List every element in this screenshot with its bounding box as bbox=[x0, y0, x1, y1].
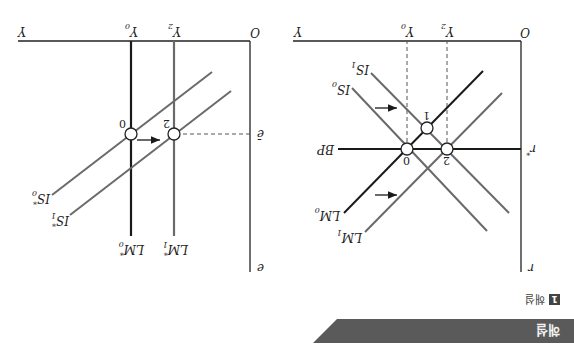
is0-label: IS0 bbox=[332, 80, 351, 96]
section-header: 해설 bbox=[313, 319, 574, 343]
is1-star-curve bbox=[70, 91, 231, 215]
figure-caption: 해설 bbox=[525, 292, 545, 306]
point-2-label: 2 bbox=[443, 154, 450, 167]
right-origin-label: O bbox=[250, 25, 260, 39]
diagram-canvas: 해설 1 해설 r O Y r* Y2 Y0 BP LM0 LM1 IS0 bbox=[0, 0, 574, 357]
lm1-star-label: LM*1 bbox=[163, 240, 189, 257]
right-y2-tick: Y2 bbox=[168, 22, 181, 38]
point-1 bbox=[421, 122, 433, 134]
left-y-axis-label: r bbox=[527, 261, 534, 275]
is1-label: IS1 bbox=[351, 60, 370, 76]
point-0-label: 0 bbox=[403, 154, 410, 167]
bp-label: BP bbox=[316, 142, 335, 156]
star-point-0 bbox=[125, 128, 137, 140]
header-bar bbox=[313, 319, 574, 343]
left-y2-tick: Y2 bbox=[441, 22, 454, 38]
lm0-curve bbox=[344, 71, 483, 213]
point-1-label: 1 bbox=[423, 109, 430, 122]
left-x-axis-label: Y bbox=[293, 24, 302, 38]
right-panel-is-lm-star: e O Y ē LM*1 LM*0 Y2 Y0 IS*0 IS*1 0 2 bbox=[17, 22, 264, 275]
is0-curve bbox=[352, 88, 487, 231]
left-origin-label: O bbox=[520, 25, 530, 39]
left-y0-tick: Y0 bbox=[401, 22, 414, 38]
is0-star-label: IS*0 bbox=[32, 189, 51, 206]
diagram-stage: 해설 1 해설 r O Y r* Y2 Y0 BP LM0 LM1 IS0 bbox=[0, 0, 574, 357]
is1-star-label: IS*1 bbox=[51, 211, 70, 228]
star-point-0-label: 0 bbox=[119, 117, 126, 130]
header-title: 해설 bbox=[536, 323, 560, 338]
right-y0-tick: Y0 bbox=[125, 22, 138, 38]
left-r-star-label: r* bbox=[526, 142, 536, 157]
is1-curve bbox=[371, 73, 509, 213]
lm0-star-label: LM*0 bbox=[119, 240, 145, 257]
lm1-label: LM1 bbox=[337, 228, 363, 244]
right-e-bar-label: ē bbox=[257, 127, 264, 141]
figure-label: 1 해설 bbox=[525, 292, 560, 306]
right-y-axis-label: e bbox=[257, 261, 264, 275]
figure-number: 1 bbox=[551, 294, 557, 304]
left-panel-is-lm-bp: r O Y r* Y2 Y0 BP LM0 LM1 IS0 IS1 0 1 bbox=[293, 22, 536, 275]
lm0-label: LM0 bbox=[315, 206, 341, 222]
star-point-2-label: 2 bbox=[163, 117, 170, 130]
right-x-axis-label: Y bbox=[17, 24, 26, 38]
lm1-curve bbox=[365, 93, 502, 232]
